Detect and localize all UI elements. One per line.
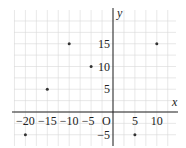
x-tick-label: −10 [60,114,79,128]
x-tick-label: 5 [132,114,138,128]
scatter-plot: xyO−20−15−10−5510−551015 [0,0,186,148]
y-tick-label: 5 [104,82,110,96]
data-point [133,133,136,136]
origin-label: O [102,114,111,128]
y-axis-label: y [116,6,123,20]
x-tick-label: −5 [82,114,95,128]
x-tick-label: 10 [151,114,163,128]
tick-labels: xyO−20−15−10−5510−551015 [16,6,178,142]
x-tick-label: −15 [38,114,57,128]
data-point [155,42,158,45]
x-tick-label: −20 [16,114,35,128]
y-tick-label: 10 [98,60,110,74]
x-axis-label: x [171,95,178,109]
data-point [46,88,49,91]
data-point [24,133,27,136]
y-tick-label: 15 [98,37,110,51]
y-tick-label: −5 [97,128,110,142]
data-point [68,42,71,45]
data-point [90,65,93,68]
